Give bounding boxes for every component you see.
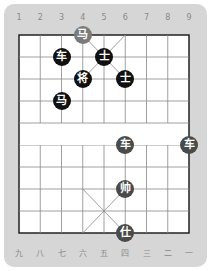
file-label-top: 2 <box>33 13 47 22</box>
piece-black[interactable]: 士 <box>95 48 113 66</box>
piece-red[interactable]: 仕 <box>116 224 134 242</box>
file-label-top: 1 <box>12 13 26 22</box>
piece-black[interactable]: 将 <box>74 70 92 88</box>
piece-highlight[interactable]: 马 <box>74 26 92 44</box>
file-label-top: 8 <box>161 13 175 22</box>
file-label-bottom: 八 <box>33 247 47 258</box>
file-label-bottom: 三 <box>140 247 154 258</box>
piece-red[interactable]: 帅 <box>116 180 134 198</box>
file-label-bottom: 一 <box>182 247 196 258</box>
piece-black[interactable]: 士 <box>116 70 134 88</box>
piece-black[interactable]: 车 <box>53 48 71 66</box>
file-label-bottom: 七 <box>55 247 69 258</box>
piece-red[interactable]: 车 <box>180 136 198 154</box>
file-label-bottom: 二 <box>161 247 175 258</box>
file-label-top: 9 <box>182 13 196 22</box>
file-label-bottom: 五 <box>97 247 111 258</box>
file-label-top: 3 <box>55 13 69 22</box>
file-label-bottom: 四 <box>118 247 132 258</box>
file-label-top: 5 <box>97 13 111 22</box>
piece-red[interactable]: 车 <box>116 136 134 154</box>
file-label-bottom: 六 <box>76 247 90 258</box>
xiangqi-board[interactable] <box>0 0 211 271</box>
file-label-bottom: 九 <box>12 247 26 258</box>
file-label-top: 4 <box>76 13 90 22</box>
file-label-top: 7 <box>140 13 154 22</box>
file-label-top: 6 <box>118 13 132 22</box>
piece-black[interactable]: 马 <box>53 92 71 110</box>
